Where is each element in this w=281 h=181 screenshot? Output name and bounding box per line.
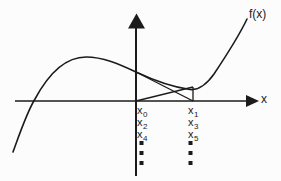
label-x5-sub: 5 [194,134,198,143]
right-ellipsis-dot [189,151,193,155]
label-x0-base: x [137,104,143,116]
label-x4-sub: 4 [143,134,147,143]
tangent-line-from-x1 [136,87,193,101]
label-x4: x4 [137,128,147,145]
x-axis-label: x [261,93,267,106]
curve-label: f(x) [249,8,266,21]
label-x5-base: x [188,128,194,140]
label-x3-base: x [188,116,194,128]
tangent-line-from-x0 [136,72,193,101]
function-curve [13,19,247,152]
right-ellipsis-dot [189,161,193,165]
label-x5: x5 [188,128,198,145]
left-ellipsis-dot [140,151,144,155]
left-ellipsis-dot [140,161,144,165]
label-x4-base: x [137,128,143,140]
figure-canvas [0,0,281,181]
y-axis-arrowhead-icon [128,14,145,29]
label-x2-base: x [137,116,143,128]
x-axis-arrowhead-icon [246,95,259,107]
newton-iteration-figure: f(x) x x0 x2 x4 x1 x3 x5 [0,0,281,181]
label-x1-base: x [188,104,194,116]
